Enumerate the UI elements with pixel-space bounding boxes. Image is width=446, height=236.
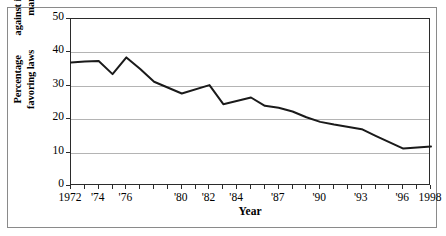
x-tick-mark <box>278 185 279 189</box>
x-tick-mark <box>319 185 320 189</box>
x-tick-mark <box>292 185 293 189</box>
x-tick-mark <box>430 185 431 189</box>
x-tick-mark <box>250 185 251 189</box>
y-tick-mark <box>66 118 70 119</box>
x-tick-mark <box>98 185 99 189</box>
x-tick-label: '87 <box>271 191 285 203</box>
x-tick-mark <box>402 185 403 189</box>
y-tick-label: 10 <box>38 144 64 156</box>
y-tick-mark <box>66 51 70 52</box>
y-tick-mark <box>66 18 70 19</box>
y-axis-label-line1: Percentage favoring laws <box>11 40 37 119</box>
x-tick-label: '80 <box>174 191 188 203</box>
x-tick-mark <box>84 185 85 189</box>
x-tick-mark <box>195 185 196 189</box>
x-tick-label: '74 <box>91 191 105 203</box>
y-tick-label: 40 <box>38 43 64 55</box>
y-tick-label: 20 <box>38 110 64 122</box>
x-tick-label: '93 <box>354 191 368 203</box>
x-tick-mark <box>167 185 168 189</box>
x-tick-label: 1972 <box>59 191 82 203</box>
x-tick-mark <box>153 185 154 189</box>
x-tick-mark <box>333 185 334 189</box>
y-tick-label: 0 <box>38 177 64 189</box>
x-tick-mark <box>375 185 376 189</box>
chart-figure: Percentage favoring laws against interra… <box>0 0 446 236</box>
x-tick-mark <box>125 185 126 189</box>
x-tick-mark <box>416 185 417 189</box>
x-tick-label: '90 <box>312 191 326 203</box>
y-tick-label: 30 <box>38 77 64 89</box>
x-tick-mark <box>222 185 223 189</box>
plot-wrapper: 01020304050 1972'74'76'80'82'84'87'90'93… <box>70 18 430 185</box>
x-tick-mark <box>70 185 71 189</box>
x-tick-mark <box>181 185 182 189</box>
x-tick-label: 1998 <box>419 191 442 203</box>
y-tick-label: 50 <box>38 10 64 22</box>
y-axis-label: Percentage favoring laws against interra… <box>7 0 41 119</box>
x-tick-mark <box>305 185 306 189</box>
x-tick-mark <box>388 185 389 189</box>
x-tick-mark <box>112 185 113 189</box>
x-tick-mark <box>361 185 362 189</box>
x-axis-label: Year <box>70 205 430 217</box>
y-axis-label-line2: against interracial marriage <box>11 0 37 40</box>
x-tick-mark <box>236 185 237 189</box>
x-tick-mark <box>347 185 348 189</box>
x-tick-label: '84 <box>229 191 243 203</box>
y-axis-ticks: 01020304050 <box>70 18 430 185</box>
x-tick-label: '76 <box>119 191 133 203</box>
x-tick-label: '82 <box>202 191 216 203</box>
y-tick-mark <box>66 85 70 86</box>
x-tick-label: '96 <box>396 191 410 203</box>
x-tick-mark <box>264 185 265 189</box>
x-tick-mark <box>139 185 140 189</box>
x-tick-mark <box>208 185 209 189</box>
y-tick-mark <box>66 152 70 153</box>
